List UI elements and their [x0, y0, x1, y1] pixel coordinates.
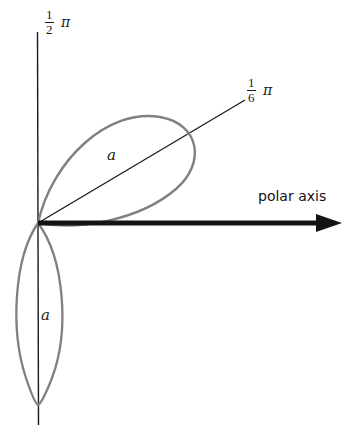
half-pi-numerator: 1 — [45, 8, 54, 23]
half-pi-symbol: π — [58, 15, 70, 29]
sixth-pi-label: 1 6 π — [247, 76, 272, 104]
amplitude-label-lower: a — [41, 308, 50, 323]
polar-axis-arrowhead — [316, 214, 342, 232]
sixth-pi-fraction: 1 6 — [247, 76, 256, 104]
polar-diagram: 1 2 π 1 6 π polar axis a a — [0, 0, 348, 436]
lower-petal-curve — [16, 223, 62, 405]
polar-plot-svg — [0, 0, 348, 436]
sixth-pi-denominator: 6 — [247, 91, 256, 105]
polar-axis-label: polar axis — [258, 189, 326, 203]
half-pi-fraction: 1 2 — [45, 8, 54, 36]
half-pi-denominator: 2 — [45, 23, 54, 37]
sixth-pi-symbol: π — [260, 83, 272, 97]
amplitude-label-upper: a — [107, 148, 116, 163]
half-pi-axis-line — [38, 32, 39, 425]
half-pi-label: 1 2 π — [45, 8, 70, 36]
sixth-pi-axis-line — [38, 100, 245, 223]
sixth-pi-numerator: 1 — [247, 76, 256, 91]
